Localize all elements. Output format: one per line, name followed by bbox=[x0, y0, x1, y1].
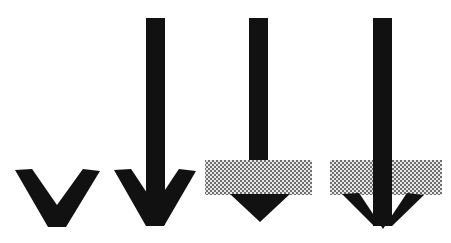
panel-4-shaft bbox=[373, 18, 392, 226]
panel-2-shaft bbox=[146, 18, 165, 225]
arrow-diagram bbox=[0, 0, 451, 243]
panel-3-shaft bbox=[249, 18, 268, 163]
figure-canvas bbox=[0, 0, 451, 243]
panel-3-band bbox=[205, 160, 312, 195]
